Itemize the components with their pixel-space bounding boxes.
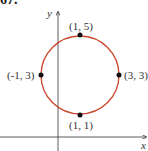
point-top-label: (1, 5) bbox=[69, 20, 93, 33]
point-right bbox=[117, 73, 122, 78]
point-bottom-label: (1, 1) bbox=[69, 119, 93, 132]
circle-graph: x y (1, 5) (-1, 3) (3, 3) (1, 1) bbox=[0, 0, 148, 151]
point-left-label: (-1, 3) bbox=[7, 69, 35, 82]
point-bottom bbox=[78, 113, 83, 118]
point-top bbox=[78, 33, 83, 38]
point-left bbox=[39, 73, 44, 78]
y-axis-label: y bbox=[46, 7, 52, 19]
circle bbox=[41, 36, 119, 114]
point-right-label: (3, 3) bbox=[124, 69, 148, 82]
x-axis-label: x bbox=[140, 139, 146, 151]
